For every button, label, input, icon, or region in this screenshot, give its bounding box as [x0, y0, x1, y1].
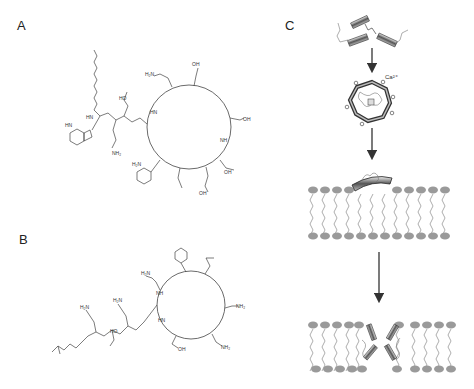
figure-canvas: HN HN HO NH₂ H₂N OH OH OH OH H₂N HN NH H… — [0, 0, 474, 389]
macrocycle-ring-a — [147, 85, 231, 169]
structure-b: H₂N H₂N H₂N NH₂ NH₂ OH HO NH HN — [52, 248, 245, 354]
calcium-label: Ca²⁺ — [385, 74, 398, 80]
svg-text:H₂N: H₂N — [113, 297, 123, 303]
phenyl-ring — [175, 248, 187, 263]
svg-text:HO: HO — [119, 95, 127, 101]
svg-text:HO: HO — [110, 328, 118, 334]
membrane-bilayer-2-pore — [308, 322, 456, 373]
svg-text:HN: HN — [158, 317, 166, 323]
svg-text:HN: HN — [65, 122, 73, 128]
svg-text:H₂N: H₂N — [132, 161, 142, 167]
ca-oligomer: Ca²⁺ — [345, 74, 397, 126]
lipid-heads-bottom — [308, 233, 450, 240]
svg-text:H₂N: H₂N — [141, 270, 151, 276]
lipid-tails-2 — [310, 329, 451, 371]
mechanism-c: Ca²⁺ — [308, 15, 456, 372]
macrocycle-ring-b — [157, 271, 225, 339]
svg-text:HN: HN — [86, 114, 94, 120]
svg-text:H₂N: H₂N — [145, 71, 155, 77]
structure-a: HN HN HO NH₂ H₂N OH OH OH OH H₂N HN NH — [65, 50, 251, 196]
lipid-tail-b — [52, 336, 88, 352]
svg-text:OH: OH — [178, 346, 186, 352]
svg-text:OH: OH — [192, 61, 200, 67]
svg-text:NH₂: NH₂ — [221, 344, 230, 350]
svg-text:NH: NH — [220, 137, 228, 143]
svg-text:NH₂: NH₂ — [112, 150, 121, 156]
svg-text:H₂N: H₂N — [80, 304, 90, 310]
svg-text:OH: OH — [243, 116, 251, 122]
svg-text:OH: OH — [224, 169, 232, 175]
lipid-heads-bottom-2 — [311, 366, 456, 373]
membrane-bilayer-1 — [308, 173, 450, 240]
monomers — [337, 15, 408, 46]
svg-text:NH₂: NH₂ — [236, 303, 245, 309]
lipid-tail-a — [94, 50, 97, 110]
lipid-heads-top — [308, 187, 450, 194]
aminophenyl-ring — [137, 168, 151, 184]
inserted-oligomer — [352, 177, 392, 191]
lipid-tails — [310, 194, 445, 236]
lipid-heads-top-2 — [308, 322, 456, 329]
svg-text:HN: HN — [150, 109, 158, 115]
pore-helix — [366, 324, 376, 341]
svg-text:OH: OH — [199, 190, 207, 196]
indole-ring — [70, 129, 84, 145]
svg-text:NH: NH — [156, 290, 164, 296]
